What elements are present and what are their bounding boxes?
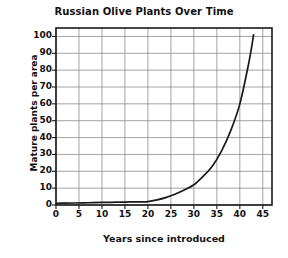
series-path [56, 35, 254, 204]
grid-lines [56, 28, 272, 205]
chart-container: Russian Olive Plants Over Time Mature pl… [0, 0, 288, 258]
axis-ticks [52, 36, 263, 209]
data-series-line [56, 35, 254, 204]
plot-area [0, 0, 288, 258]
